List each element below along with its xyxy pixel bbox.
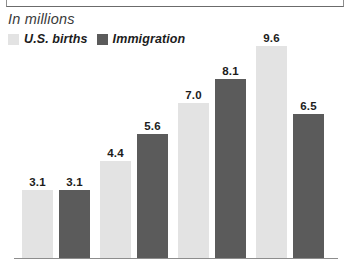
bar-us-births-1[interactable] [22, 190, 53, 258]
bar-value-label-us-births-4: 9.6 [256, 32, 287, 44]
bar-value-label-us-births-1: 3.1 [22, 176, 53, 188]
bar-immigration-4[interactable] [293, 114, 324, 258]
bar-value-label-immigration-3: 8.1 [215, 65, 246, 77]
bar-immigration-2[interactable] [137, 134, 168, 258]
bar-immigration-1[interactable] [59, 190, 90, 258]
bar-value-label-us-births-2: 4.4 [100, 147, 131, 159]
bar-us-births-2[interactable] [100, 161, 131, 258]
plot-area: 3.1 3.1 4.4 5.6 7.0 8.1 9.6 6.5 [0, 0, 350, 278]
x-axis-baseline [14, 258, 338, 259]
bar-value-label-immigration-1: 3.1 [59, 176, 90, 188]
bar-chart: In millions U.S. births Immigration 3.1 … [0, 0, 350, 278]
bar-value-label-immigration-4: 6.5 [293, 100, 324, 112]
bar-us-births-4[interactable] [256, 46, 287, 258]
bar-value-label-us-births-3: 7.0 [178, 89, 209, 101]
bar-value-label-immigration-2: 5.6 [137, 120, 168, 132]
bar-us-births-3[interactable] [178, 103, 209, 258]
bar-immigration-3[interactable] [215, 79, 246, 258]
